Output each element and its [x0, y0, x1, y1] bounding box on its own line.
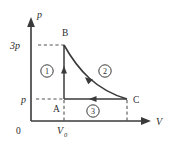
x-tick-v0-label: V 0 — [57, 125, 68, 138]
v-axis-arrowhead — [141, 117, 151, 125]
y-tick-3p-label: 3p — [9, 40, 20, 51]
p-axis-label: p — [36, 9, 42, 20]
process-1-arrowhead — [61, 66, 67, 74]
pv-diagram-canvas: p V 0 3p p V 0 B A C 1 2 3 — [0, 0, 170, 154]
v-axis-label: V — [156, 116, 164, 127]
point-label-b: B — [62, 28, 68, 38]
p-axis-arrowhead — [27, 17, 35, 27]
origin-label: 0 — [16, 126, 21, 136]
x-tick-v0-subscript: 0 — [64, 131, 68, 138]
process-1-marker: 1 — [41, 65, 53, 77]
y-tick-p-label: p — [20, 94, 26, 105]
process-3-arrowhead — [89, 96, 97, 102]
process-3-marker-number: 3 — [91, 107, 95, 116]
process-1-path — [61, 45, 67, 99]
process-2-path — [64, 45, 127, 99]
process-3-path — [64, 96, 127, 102]
process-2-marker-number: 2 — [103, 67, 107, 76]
point-label-c: C — [133, 95, 139, 105]
process-1-marker-number: 1 — [45, 67, 49, 76]
point-label-a: A — [53, 104, 60, 114]
process-2-marker: 2 — [99, 65, 111, 77]
process-3-marker: 3 — [87, 105, 99, 117]
pv-diagram-figure: p V 0 3p p V 0 B A C 1 2 3 — [0, 0, 170, 154]
process-2-curve — [64, 45, 127, 99]
guide-lines — [36, 45, 127, 121]
